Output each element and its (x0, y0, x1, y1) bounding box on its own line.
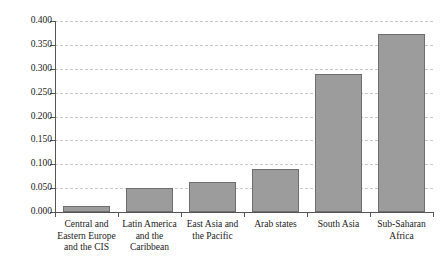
plot-area (55, 21, 433, 212)
bar-chart: 0.0000.0500.1000.1500.2000.2500.3000.350… (0, 0, 441, 265)
y-axis-tick-label: 0.000 (0, 207, 52, 217)
x-axis-category-label: Latin America and the Caribbean (118, 219, 181, 254)
x-axis-tick (370, 213, 371, 217)
gridline (55, 21, 433, 22)
x-axis-tick (55, 213, 56, 217)
x-axis-category-label: Central and Eastern Europe and the CIS (55, 219, 118, 254)
gridline (55, 45, 433, 46)
bar (189, 182, 236, 212)
gridline (55, 117, 433, 118)
y-axis-tick-label: 0.050 (0, 183, 52, 193)
x-axis-category-label: Arab states (244, 219, 307, 231)
y-axis-tick-label: 0.250 (0, 88, 52, 98)
y-axis-line (55, 21, 56, 213)
y-axis-tick-label: 0.300 (0, 64, 52, 74)
x-axis-tick (244, 213, 245, 217)
x-axis-tick (181, 213, 182, 217)
y-axis-tick-label: 0.400 (0, 16, 52, 26)
bar (378, 34, 425, 212)
y-axis-tick-label: 0.100 (0, 159, 52, 169)
y-axis-tick-label: 0.350 (0, 40, 52, 50)
x-axis-category-label: East Asia and the Pacific (181, 219, 244, 242)
y-axis-tick-label: 0.150 (0, 135, 52, 145)
bar (126, 188, 173, 212)
gridline (55, 93, 433, 94)
bar (252, 169, 299, 212)
x-axis-tick (433, 213, 434, 217)
gridline (55, 188, 433, 189)
x-axis-category-label: Sub-Saharan Africa (370, 219, 433, 242)
x-axis-tick (307, 213, 308, 217)
gridline (55, 69, 433, 70)
y-axis-tick-label: 0.200 (0, 112, 52, 122)
gridline (55, 140, 433, 141)
x-axis-category-label: South Asia (307, 219, 370, 231)
bar (315, 74, 362, 212)
x-axis-tick (118, 213, 119, 217)
gridline (55, 164, 433, 165)
